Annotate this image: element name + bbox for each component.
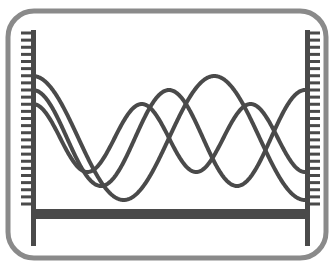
left-wall-hatch-tick xyxy=(21,153,31,156)
right-wall-hatch-tick xyxy=(310,32,320,35)
left-wall-hatch-tick xyxy=(21,46,31,49)
diagram-canvas xyxy=(0,0,335,267)
left-wall-hatch-tick xyxy=(21,124,31,127)
left-wall-hatch-tick xyxy=(21,81,31,84)
left-wall-hatch-tick xyxy=(21,39,31,42)
right-wall-hatch-tick xyxy=(310,81,320,84)
left-wall-hatch-tick xyxy=(21,60,31,63)
right-wall-hatch-tick xyxy=(310,181,320,184)
standing-wave-diagram: Standing wave modes between two fixed bo… xyxy=(0,0,335,267)
rigid-base-support xyxy=(31,209,307,219)
right-wall-hatch-tick xyxy=(310,124,320,127)
right-wall-hatch-tick xyxy=(310,138,320,141)
right-wall-hatch-tick xyxy=(310,195,320,198)
right-wall-hatch-tick xyxy=(310,110,320,113)
left-wall-hatch-tick xyxy=(21,103,31,106)
right-wall-hatch-tick xyxy=(310,39,320,42)
right-wall-hatch-tick xyxy=(310,53,320,56)
right-wall-hatch-tick xyxy=(310,96,320,99)
right-wall-hatch-tick xyxy=(310,160,320,163)
left-wall-hatch-tick xyxy=(21,160,31,163)
left-wall-hatch-tick xyxy=(21,117,31,120)
right-wall-hatch-tick xyxy=(310,60,320,63)
left-wall-hatch-tick xyxy=(21,174,31,177)
left-wall-hatch-tick xyxy=(21,96,31,99)
right-wall-hatch-tick xyxy=(310,46,320,49)
left-wall-hatch-tick xyxy=(21,110,31,113)
left-wall-hatch-tick xyxy=(21,203,31,206)
right-wall-hatch-tick xyxy=(310,103,320,106)
left-wall-hatch-tick xyxy=(21,138,31,141)
right-wall-hatch-tick xyxy=(310,67,320,70)
right-wall-hatch-tick xyxy=(310,74,320,77)
right-wall-hatch-tick xyxy=(310,89,320,92)
left-wall-hatch-tick xyxy=(21,195,31,198)
left-wall-hatch-tick xyxy=(21,32,31,35)
left-wall-hatch-tick xyxy=(21,89,31,92)
right-wall-hatch-tick xyxy=(310,117,320,120)
right-wall-hatch-tick xyxy=(310,167,320,170)
left-wall-hatch-tick xyxy=(21,74,31,77)
left-wall-hatch-tick xyxy=(21,67,31,70)
left-wall-hatch-tick xyxy=(21,146,31,149)
left-wall-hatch-tick xyxy=(21,53,31,56)
left-wall-hatch-tick xyxy=(21,167,31,170)
right-wall-hatch-tick xyxy=(310,153,320,156)
left-wall-hatch-tick xyxy=(21,131,31,134)
left-wall-hatch-tick xyxy=(21,188,31,191)
left-wall-hatch-tick xyxy=(21,181,31,184)
right-wall-hatch-tick xyxy=(310,188,320,191)
right-wall-hatch-tick xyxy=(310,146,320,149)
right-wall-hatch-tick xyxy=(310,203,320,206)
right-wall-hatch-tick xyxy=(310,174,320,177)
right-wall-hatch-tick xyxy=(310,131,320,134)
